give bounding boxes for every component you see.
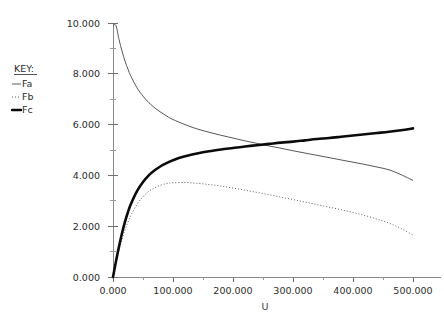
y-tick-label: 2.000 xyxy=(73,221,100,232)
plot-canvas: KEY:FaFbFc 0.000100.000200.000300.000400… xyxy=(0,0,444,321)
legend-label-fa: Fa xyxy=(22,78,32,89)
y-tick-label: 10.000 xyxy=(67,18,100,29)
x-tick-label: 500.000 xyxy=(393,285,432,296)
axes: 0.000100.000200.000300.000400.000500.000… xyxy=(67,18,441,297)
legend: KEY:FaFbFc xyxy=(12,63,37,115)
x-axis-label: U xyxy=(262,301,269,312)
y-tick-label: 4.000 xyxy=(73,170,100,181)
x-tick-label: 400.000 xyxy=(333,285,372,296)
x-tick-label: 200.000 xyxy=(213,285,252,296)
legend-title: KEY: xyxy=(14,63,34,74)
y-tick-label: 0.000 xyxy=(73,272,100,283)
y-tick-label: 6.000 xyxy=(73,119,100,130)
series-line-fc xyxy=(113,128,413,277)
chart-figure: KEY:FaFbFc 0.000100.000200.000300.000400… xyxy=(0,0,444,321)
x-tick-label: 0.000 xyxy=(99,285,126,296)
x-axis-title: U xyxy=(262,301,269,312)
y-tick-label: 8.000 xyxy=(73,68,100,79)
legend-label-fb: Fb xyxy=(22,91,34,102)
x-tick-label: 100.000 xyxy=(153,285,192,296)
data-series xyxy=(113,25,413,277)
legend-label-fc: Fc xyxy=(22,104,33,115)
x-tick-label: 300.000 xyxy=(273,285,312,296)
series-line-fb xyxy=(113,182,413,277)
series-line-fa xyxy=(113,25,413,181)
